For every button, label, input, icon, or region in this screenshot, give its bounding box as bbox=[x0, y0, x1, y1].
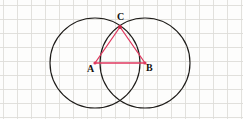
geometry-figure: A B C bbox=[0, 0, 243, 119]
vertex-label-c: C bbox=[117, 12, 124, 22]
vertex-label-b: B bbox=[146, 63, 153, 73]
vertex-label-a: A bbox=[87, 64, 94, 74]
vertex-dot-C bbox=[118, 25, 122, 29]
